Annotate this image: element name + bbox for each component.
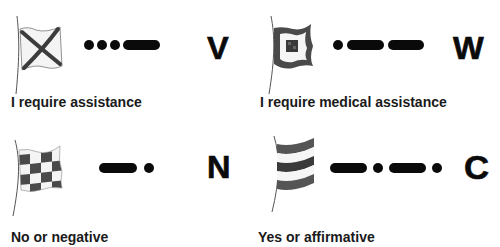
morse-code-c <box>330 162 445 174</box>
signal-letter: N <box>207 152 231 183</box>
morse-dash <box>330 163 367 173</box>
flag-c-horizontal-stripes-icon <box>270 134 322 214</box>
flag-n-checkered-icon <box>10 138 66 218</box>
signal-caption: No or negative <box>11 230 108 244</box>
signal-caption: I require assistance <box>11 95 142 109</box>
flag-v-saltire-icon <box>10 14 66 96</box>
signal-letter: V <box>207 33 229 64</box>
signal-v: V I require assistance <box>0 0 250 124</box>
morse-dot <box>110 40 120 50</box>
flag-w-concentric-squares-icon <box>265 14 321 96</box>
morse-dash <box>99 163 137 173</box>
morse-dash <box>388 40 424 50</box>
morse-code-v <box>84 39 164 51</box>
signal-letter: C <box>464 151 489 184</box>
signal-caption: Yes or affirmative <box>258 230 375 244</box>
morse-code-w <box>333 39 428 51</box>
signal-n: N No or negative <box>0 124 250 247</box>
morse-dot <box>373 163 383 173</box>
morse-dash <box>123 40 160 50</box>
morse-dot <box>144 163 154 173</box>
morse-dash <box>389 163 426 173</box>
morse-dot <box>84 40 94 50</box>
signal-caption: I require medical assistance <box>260 95 447 109</box>
morse-dash <box>347 40 384 50</box>
morse-dot <box>333 40 343 50</box>
signal-letter: W <box>453 33 484 64</box>
signal-c: C Yes or affirmative <box>250 124 500 247</box>
morse-code-n <box>99 162 157 174</box>
morse-dot <box>97 40 107 50</box>
signal-w: W I require medical assistance <box>250 0 500 124</box>
morse-dot <box>432 163 442 173</box>
